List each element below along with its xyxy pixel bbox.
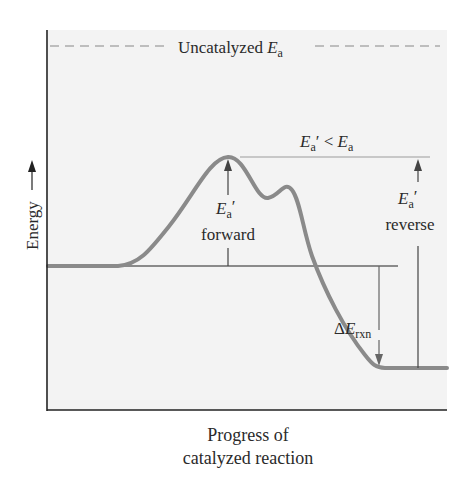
y-axis-arrowhead: [28, 160, 36, 172]
y-axis-label: Energy: [23, 201, 42, 250]
x-axis-label-line1: Progress of: [207, 425, 289, 445]
forward-label: forward: [201, 225, 255, 244]
y-axis-label-group: Energy: [23, 160, 42, 250]
energy-diagram: Uncatalyzed Ea Ea′ < Ea Ea′ forward Ea′ …: [0, 0, 463, 488]
x-axis-label-line2: catalyzed reaction: [183, 448, 313, 468]
ea-comparison-label: Ea′ < Ea: [299, 132, 354, 154]
uncatalyzed-ea-label: Uncatalyzed Ea: [178, 38, 284, 60]
reverse-label: reverse: [385, 215, 434, 234]
